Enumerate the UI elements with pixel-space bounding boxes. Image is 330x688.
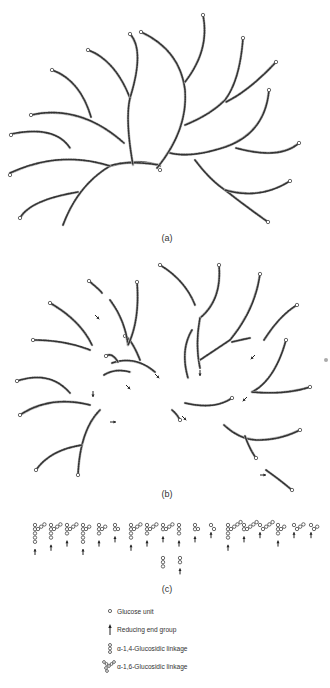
released-fragment bbox=[177, 523, 180, 546]
glucose-unit bbox=[255, 520, 258, 523]
reducing-end-arrowhead bbox=[97, 541, 100, 544]
glucose-unit bbox=[155, 523, 158, 526]
released-fragment bbox=[113, 523, 119, 542]
reducing-end-arrowhead bbox=[113, 420, 116, 423]
reducing-end-arrowhead bbox=[242, 536, 245, 539]
released-linear-fragment bbox=[161, 556, 164, 568]
glucose-unit bbox=[249, 525, 252, 528]
glucose-unit bbox=[109, 644, 112, 647]
glucose-unit bbox=[196, 527, 199, 530]
glucose-unit bbox=[106, 670, 109, 673]
glucose-chain bbox=[252, 387, 310, 393]
glucose-unit bbox=[171, 523, 174, 526]
released-fragment bbox=[309, 523, 319, 538]
released-fragment bbox=[145, 523, 158, 547]
branched-polysaccharide-figure: (a) (b) (c) Glucose unit Reducing end gr… bbox=[0, 0, 330, 688]
glucose-unit bbox=[276, 523, 279, 526]
reducing-end-arrowhead bbox=[177, 541, 180, 544]
glucose-unit bbox=[261, 527, 264, 530]
glucose-unit bbox=[105, 667, 108, 670]
glucose-unit bbox=[229, 527, 232, 530]
glucose-unit bbox=[193, 523, 196, 526]
glucose-unit bbox=[52, 527, 55, 530]
glucose-unit bbox=[283, 525, 286, 528]
glucose-unit bbox=[113, 661, 116, 664]
glucose-chain-shadow bbox=[52, 70, 91, 117]
glucose-unit bbox=[33, 540, 36, 543]
non-reducing-end-unit bbox=[254, 456, 257, 459]
reducing-end-arrowhead bbox=[108, 624, 111, 628]
glucose-unit bbox=[109, 651, 112, 654]
glucose-unit bbox=[271, 520, 274, 523]
glucose-unit bbox=[252, 523, 255, 526]
panel-c-released-fragments bbox=[33, 520, 319, 574]
glucose-chain bbox=[10, 159, 110, 173]
glucose-unit bbox=[258, 523, 261, 526]
legend: Glucose unit Reducing end group α-1,4-Gl… bbox=[103, 608, 188, 673]
non-reducing-end-unit bbox=[266, 220, 269, 223]
glucose-unit bbox=[129, 523, 132, 526]
non-reducing-end-unit bbox=[50, 68, 53, 71]
non-reducing-end-unit bbox=[158, 168, 161, 171]
glucose-chain bbox=[200, 265, 219, 318]
non-reducing-end-unit bbox=[8, 173, 11, 176]
non-reducing-end-unit bbox=[290, 488, 293, 491]
glucose-unit bbox=[299, 525, 302, 528]
legend-item-reducing-end: Reducing end group bbox=[108, 624, 176, 635]
reducing-end-arrowhead bbox=[49, 545, 52, 548]
glucose-chain bbox=[200, 274, 260, 360]
glucose-unit bbox=[49, 532, 52, 535]
reducing-end-arrowhead bbox=[263, 473, 266, 476]
glucose-chain-shadow bbox=[200, 274, 260, 360]
non-reducing-end-unit bbox=[217, 263, 220, 266]
released-fragment bbox=[292, 523, 305, 539]
glucose-chain-shadow bbox=[88, 50, 130, 98]
glucose-chain-shadow bbox=[36, 445, 82, 470]
glucose-chain-shadow bbox=[224, 425, 300, 440]
glucose-chain bbox=[110, 300, 128, 345]
panel-b-label: (b) bbox=[162, 489, 173, 499]
glucose-chain bbox=[88, 50, 130, 98]
glucose-unit bbox=[109, 647, 112, 650]
reducing-end-arrowhead bbox=[161, 536, 164, 539]
non-reducing-end-unit bbox=[297, 141, 300, 144]
glucose-unit bbox=[226, 532, 229, 535]
glucose-unit bbox=[116, 527, 119, 530]
glucose-unit bbox=[97, 532, 100, 535]
reducing-end-arrowhead bbox=[65, 541, 68, 544]
glucose-unit bbox=[72, 525, 75, 528]
glucose-unit bbox=[100, 527, 103, 530]
glucose-chain-shadow bbox=[63, 162, 160, 225]
non-reducing-end-unit bbox=[288, 179, 291, 182]
glucose-unit bbox=[33, 532, 36, 535]
legend-label: α-1,6-Glucosidic linkage bbox=[117, 663, 188, 671]
glucose-unit bbox=[164, 527, 167, 530]
non-reducing-end-unit bbox=[34, 468, 37, 471]
reducing-end-arrowhead bbox=[209, 532, 212, 535]
released-fragment bbox=[242, 520, 258, 542]
glucose-unit bbox=[59, 523, 62, 526]
glucose-chain-shadow bbox=[11, 131, 70, 148]
glucose-unit bbox=[129, 532, 132, 535]
legend-label: α-1,4-Glucosidic linkage bbox=[117, 645, 188, 653]
glucose-chain-shadow bbox=[264, 305, 297, 340]
glucose-unit bbox=[276, 532, 279, 535]
glucose-chain-shadow bbox=[50, 303, 92, 345]
glucose-unit bbox=[40, 525, 43, 528]
glucose-unit bbox=[43, 523, 46, 526]
reducing-end-arrowhead bbox=[193, 536, 196, 539]
glucose-chain-shadow bbox=[78, 410, 100, 475]
non-reducing-end-unit bbox=[18, 216, 21, 219]
non-reducing-end-unit bbox=[15, 379, 18, 382]
glucose-unit bbox=[226, 523, 229, 526]
released-fragment bbox=[193, 523, 199, 542]
glucose-unit bbox=[178, 556, 181, 559]
glucose-unit bbox=[265, 525, 268, 528]
non-reducing-end-unit bbox=[308, 385, 311, 388]
non-reducing-end-unit bbox=[104, 354, 107, 357]
glucose-unit bbox=[242, 523, 245, 526]
non-reducing-end-unit bbox=[267, 88, 270, 91]
reducing-end-arrowhead bbox=[276, 541, 279, 544]
glucose-unit bbox=[56, 525, 59, 528]
glucose-unit bbox=[81, 536, 84, 539]
